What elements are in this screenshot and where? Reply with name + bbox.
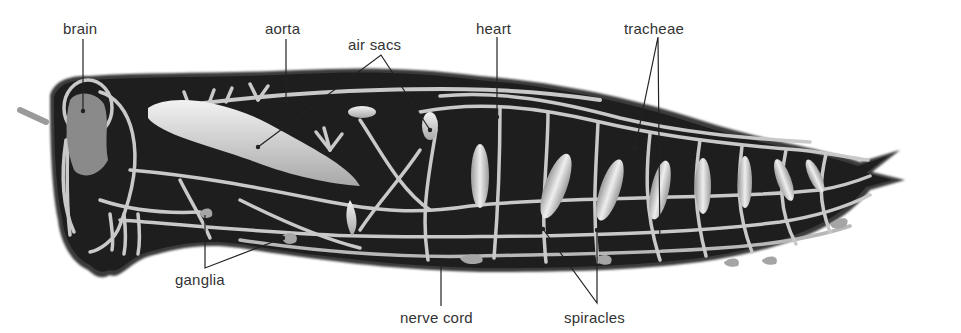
label-tracheae: tracheae: [624, 21, 684, 36]
label-aorta: aorta: [265, 21, 300, 36]
brain-shape: [67, 94, 108, 176]
label-nerve-cord: nerve cord: [400, 310, 473, 325]
label-air-sacs: air sacs: [348, 37, 401, 52]
label-ganglia: ganglia: [175, 272, 225, 287]
mouthpart: [20, 110, 46, 122]
label-heart: heart: [476, 21, 511, 36]
label-brain: brain: [63, 21, 97, 36]
larva-anatomy-diagram: [0, 0, 961, 333]
label-spiracles: spiracles: [564, 310, 625, 325]
